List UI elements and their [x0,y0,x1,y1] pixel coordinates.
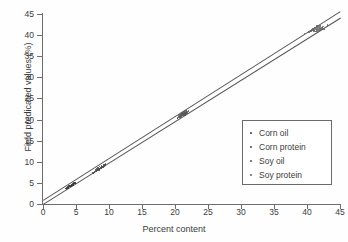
y-tick-label: 25 [12,94,34,103]
legend-marker-icon [250,146,252,148]
y-tick [37,14,42,15]
data-point [323,28,325,30]
y-tick-label: 15 [12,137,34,146]
data-point [68,187,70,189]
data-point [185,110,187,112]
legend-item-label: Soy oil [259,157,285,166]
x-tick-label: 20 [163,208,187,217]
y-tick [37,98,42,99]
x-tick-label: 15 [130,208,154,217]
legend-marker-icon [250,174,252,176]
x-tick-label: 35 [262,208,286,217]
data-point [319,25,321,27]
data-point [312,28,314,30]
data-point [73,182,75,184]
data-point [310,30,312,32]
y-tick [37,204,42,205]
y-tick [37,162,42,163]
y-tick-label: 20 [12,116,34,125]
y-tick [37,56,42,57]
y-tick-label: 10 [12,158,34,167]
legend-item[interactable]: Corn protein [250,140,331,154]
legend-item[interactable]: Soy protein [250,168,331,182]
x-tick-label: 40 [295,208,319,217]
x-tick-label: 5 [64,208,88,217]
data-point [66,188,68,190]
data-point [184,114,186,116]
y-tick-label: 30 [12,73,34,82]
x-tick-label: 10 [97,208,121,217]
x-tick-label: 25 [196,208,220,217]
y-tick-label: 35 [12,52,34,61]
legend-item-label: Soy protein [259,171,302,180]
x-tick-label: 30 [229,208,253,217]
data-point [186,112,188,114]
data-point [316,25,318,27]
y-tick [37,120,42,121]
data-point [98,169,100,171]
legend-item[interactable]: Corn oil [250,126,331,140]
x-axis-title: Percent content [0,224,348,234]
y-tick [37,35,42,36]
x-axis-line [42,204,341,205]
y-tick-label: 45 [12,10,34,19]
y-tick [37,183,42,184]
legend-item-label: Corn oil [259,129,288,138]
y-tick-label: 5 [12,179,34,188]
legend-marker-icon [250,132,252,134]
x-tick-label: 45 [328,208,348,217]
y-tick [37,141,42,142]
y-tick [37,77,42,78]
legend-item[interactable]: Soy oil [250,154,331,168]
scatter-plot-figure: Field predicated values (%) Percent cont… [0,0,348,242]
legend-box[interactable]: Corn oilCorn proteinSoy oilSoy protein [242,120,332,185]
x-tick-label: 0 [31,208,55,217]
legend-marker-icon [250,160,252,162]
legend-item-label: Corn protein [259,143,306,152]
y-tick-label: 40 [12,31,34,40]
